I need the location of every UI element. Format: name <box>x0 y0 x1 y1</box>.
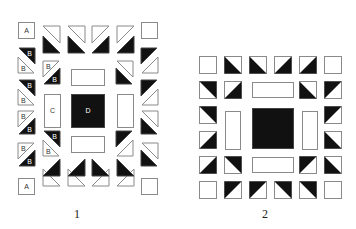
half-square-triangle-block <box>300 157 317 174</box>
light-square-piece <box>253 83 294 98</box>
half-square-triangle-block <box>300 182 317 199</box>
half-square-triangle-block <box>300 57 317 74</box>
light-square-piece <box>325 57 342 74</box>
light-square-piece <box>303 112 318 150</box>
half-square-triangle-block <box>225 57 242 74</box>
piece-label: B <box>21 145 26 152</box>
quilt-block-diagrams: AABBBBBBBBBBBBCD <box>0 0 356 229</box>
piece-label: A <box>24 183 29 190</box>
half-square-triangle-block <box>325 157 342 174</box>
half-square-triangle-block <box>225 157 242 174</box>
dark-triangle-piece <box>43 159 60 176</box>
diagram-2-assembled-block <box>200 57 342 199</box>
half-square-triangle-block <box>250 57 267 74</box>
half-square-triangle-block <box>200 107 217 124</box>
diagram-1-caption: 1 <box>74 207 80 222</box>
half-square-triangle-block <box>200 157 217 174</box>
half-square-triangle-block <box>250 182 267 199</box>
piece-label: B <box>52 76 57 83</box>
half-square-triangle-block <box>225 82 242 99</box>
piece-label: B <box>21 97 26 104</box>
half-square-triangle-block <box>275 182 292 199</box>
piece-label: B <box>52 133 57 140</box>
piece-label: B <box>27 50 32 57</box>
half-square-triangle-block <box>200 132 217 149</box>
light-square-piece <box>253 158 294 173</box>
piece-label: B <box>21 65 26 72</box>
piece-label: B <box>27 82 32 89</box>
dark-triangle-piece <box>117 159 134 176</box>
diagram-2-caption: 2 <box>262 207 268 222</box>
diagram-1-exploded-block: AABBBBBBBBBBBBCD <box>18 23 158 195</box>
piece-label: C <box>50 107 55 114</box>
piece-label: B <box>46 63 51 70</box>
piece-label: B <box>46 148 51 155</box>
piece-label: D <box>85 107 90 114</box>
light-square-piece <box>200 57 217 74</box>
piece-label: B <box>27 126 32 133</box>
dark-triangle-piece <box>92 159 109 176</box>
half-square-triangle-block <box>200 82 217 99</box>
light-square-piece <box>142 179 158 195</box>
light-square-piece <box>142 23 158 39</box>
light-square-piece <box>118 95 134 128</box>
piece-label: B <box>21 113 26 120</box>
light-square-piece <box>226 112 241 150</box>
light-square-piece <box>325 182 342 199</box>
piece-label: B <box>27 158 32 165</box>
half-square-triangle-block <box>325 82 342 99</box>
light-square-piece <box>200 182 217 199</box>
piece-label: A <box>24 27 29 34</box>
half-square-triangle-block <box>325 107 342 124</box>
half-square-triangle-block <box>275 57 292 74</box>
dark-square-piece <box>253 109 294 149</box>
half-square-triangle-block <box>300 82 317 99</box>
dark-triangle-piece <box>68 159 85 176</box>
light-square-piece <box>72 137 105 153</box>
light-square-piece <box>72 70 105 86</box>
half-square-triangle-block <box>325 132 342 149</box>
half-square-triangle-block <box>225 182 242 199</box>
